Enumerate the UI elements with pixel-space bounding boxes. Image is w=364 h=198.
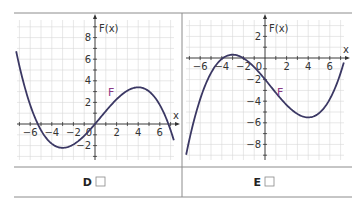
y-axis-label: F(x) bbox=[269, 23, 289, 34]
y-tick-label: 6 bbox=[85, 54, 91, 65]
y-axis-label: F(x) bbox=[99, 23, 119, 34]
graph-panel-d: −6−4−2246−224680xF(x)F bbox=[16, 14, 180, 160]
y-tick-label: 2 bbox=[255, 31, 261, 42]
y-axis-arrow-icon bbox=[263, 14, 267, 19]
x-tick-label: −2 bbox=[66, 127, 81, 138]
y-tick-label: −6 bbox=[246, 117, 261, 128]
x-tick-label: −6 bbox=[193, 61, 208, 72]
grid bbox=[17, 20, 174, 160]
curve-label: F bbox=[277, 86, 283, 99]
y-tick-label: −2 bbox=[246, 74, 261, 85]
y-tick-label: 4 bbox=[85, 75, 91, 86]
curve-label: F bbox=[108, 86, 114, 99]
x-tick-label: −6 bbox=[23, 127, 38, 138]
y-tick-label: −4 bbox=[246, 96, 261, 107]
y-tick-label: 2 bbox=[85, 97, 91, 108]
y-tick-label: 8 bbox=[85, 32, 91, 43]
x-tick-label: −4 bbox=[44, 127, 59, 138]
table-frame bbox=[14, 13, 352, 197]
panel-label-d: D bbox=[83, 176, 92, 189]
x-tick-label: −4 bbox=[214, 61, 229, 72]
x-tick-label: 2 bbox=[113, 127, 119, 138]
graph-panel-e: −6−4−2246−8−6−4−220xF(x)F bbox=[186, 14, 350, 160]
y-tick-label: −8 bbox=[246, 139, 261, 150]
checkbox-e[interactable] bbox=[265, 177, 274, 186]
x-axis-arrow-icon bbox=[175, 122, 180, 126]
x-axis-arrow-icon bbox=[345, 56, 350, 60]
x-tick-label: 4 bbox=[305, 61, 311, 72]
checkbox-d[interactable] bbox=[96, 177, 105, 186]
panel-label-e: E bbox=[253, 176, 261, 189]
graph-comparison-figure: −6−4−2246−224680xF(x)F −6−4−2246−8−6−4−2… bbox=[0, 0, 364, 198]
y-axis-arrow-icon bbox=[93, 14, 97, 19]
x-tick-label: 4 bbox=[135, 127, 141, 138]
x-tick-label: 2 bbox=[283, 61, 289, 72]
x-axis-label: x bbox=[343, 44, 349, 55]
x-axis-label: x bbox=[173, 110, 179, 121]
x-tick-label: 6 bbox=[157, 127, 163, 138]
answer-option-d[interactable]: D bbox=[83, 176, 105, 189]
x-tick-label: 6 bbox=[327, 61, 333, 72]
answer-option-e[interactable]: E bbox=[253, 176, 274, 189]
answer-labels: D E bbox=[83, 176, 274, 189]
